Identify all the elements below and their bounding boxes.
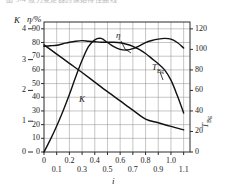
tbg-tick-label: 120	[195, 25, 213, 33]
x-tick-label-upper: 0.2	[61, 157, 77, 165]
eta-tick-label: 80	[25, 39, 40, 47]
torque-converter-characteristic-chart: K η/% i TBg/N·m 43210 908070605040302010…	[0, 0, 227, 189]
leader-lines	[121, 41, 163, 80]
x-tick-label-upper: 1.0	[163, 157, 179, 165]
eta-tick-label: 60	[25, 66, 40, 74]
eta-tick-label: 90	[25, 25, 40, 33]
eta-tick-label: 40	[25, 93, 40, 101]
x-tick-label-lower: 1.1	[176, 166, 192, 174]
x-tick-label-upper: 0.6	[112, 157, 128, 165]
eta-tick-label: 70	[25, 52, 40, 60]
x-tick-label-lower: 0.5	[99, 166, 115, 174]
gridlines	[44, 22, 190, 152]
eta-tick-label: 10	[25, 134, 40, 142]
eta-tick-label: 20	[25, 121, 40, 129]
tbg-tick-label: 20	[195, 127, 213, 135]
tbg-tick-label: 100	[195, 45, 213, 53]
x-tick-label-lower: 0.3	[74, 166, 90, 174]
eta-tick-label: 50	[25, 80, 40, 88]
x-tick-label-upper: 0.4	[87, 157, 103, 165]
plot-frame	[44, 22, 190, 152]
x-tick-label-upper: 0.8	[138, 157, 154, 165]
x-tick-label-upper: 0	[36, 157, 52, 165]
data-curves	[44, 38, 184, 152]
eta-tick-label: 0	[25, 148, 40, 156]
curve-label-eta: η	[116, 30, 120, 40]
tbg-tick-label: 40	[195, 107, 213, 115]
tbg-tick-label: 0	[195, 148, 213, 156]
eta-tick-label: 30	[25, 107, 40, 115]
tbg-tick-label: 80	[195, 66, 213, 74]
x-tick-label-lower: 0.7	[125, 166, 141, 174]
curve-label-tbg: TBg	[152, 62, 164, 74]
tbg-tick-label: 60	[195, 86, 213, 94]
x-tick-label-lower: 0.1	[49, 166, 65, 174]
curve-label-k: K	[79, 94, 85, 104]
x-tick-label-lower: 0.9	[150, 166, 166, 174]
